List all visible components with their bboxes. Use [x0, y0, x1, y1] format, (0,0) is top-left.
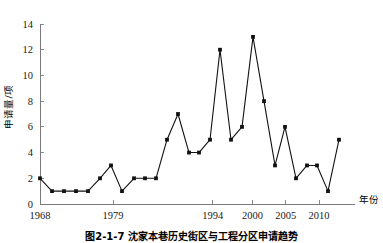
data-point-marker — [50, 189, 54, 193]
data-point-marker — [176, 112, 180, 116]
y-tick-label: 0 — [28, 199, 33, 210]
data-point-marker — [326, 189, 330, 193]
data-point-marker — [315, 164, 319, 168]
data-point-marker — [187, 151, 191, 155]
data-point-marker — [143, 176, 147, 180]
y-tick-label: 10 — [23, 70, 34, 81]
data-point-marker — [120, 189, 124, 193]
x-tick-label: 1968 — [30, 210, 51, 221]
y-tick-label: 12 — [23, 44, 34, 55]
data-point-marker — [294, 176, 298, 180]
x-tick-label: 1979 — [103, 210, 124, 221]
data-point-marker — [98, 176, 102, 180]
y-tick-label: 6 — [28, 121, 33, 132]
data-point-marker — [74, 189, 78, 193]
data-point-marker — [251, 35, 255, 39]
x-tick-label: 2000 — [242, 210, 263, 221]
figure-caption: 图2-1-7 沈家本巷历史街区与工程分区申请趋势 — [0, 228, 383, 243]
y-tick-label: 2 — [28, 173, 33, 184]
y-axis-title-wrap: 申请量/项 — [2, 62, 16, 152]
x-axis-ticks: 196819791994200020052010 — [30, 200, 330, 221]
y-tick-label: 8 — [28, 96, 33, 107]
data-point-marker — [240, 125, 244, 129]
data-point-marker — [229, 138, 233, 142]
x-axis-title: 年份 — [359, 194, 379, 205]
data-point-marker — [208, 138, 212, 142]
y-axis-ticks: 02468101214 — [23, 19, 45, 210]
data-point-marker — [132, 176, 136, 180]
data-point-marker — [165, 138, 169, 142]
x-tick-label: 2005 — [275, 210, 296, 221]
data-point-marker — [62, 189, 66, 193]
data-point-marker — [109, 164, 113, 168]
y-axis-title: 申请量/项 — [4, 85, 14, 128]
y-tick-label: 4 — [28, 147, 34, 158]
data-point-marker — [262, 99, 266, 103]
data-point-marker — [337, 138, 341, 142]
data-point-marker — [38, 176, 42, 180]
line-chart: 02468101214 196819791994200020052010 年份 — [0, 0, 383, 243]
data-point-marker — [283, 125, 287, 129]
series-line-申请量 — [40, 37, 339, 191]
x-tick-label: 1994 — [202, 210, 224, 221]
data-point-marker — [86, 189, 90, 193]
data-point-marker — [273, 164, 277, 168]
data-point-marker — [218, 48, 222, 52]
data-point-marker — [305, 164, 309, 168]
data-point-marker — [154, 176, 158, 180]
x-tick-label: 2010 — [309, 210, 330, 221]
series-markers — [38, 35, 341, 193]
y-tick-label: 14 — [23, 19, 34, 30]
figure-container: 02468101214 196819791994200020052010 年份 … — [0, 0, 383, 243]
data-point-marker — [197, 151, 201, 155]
